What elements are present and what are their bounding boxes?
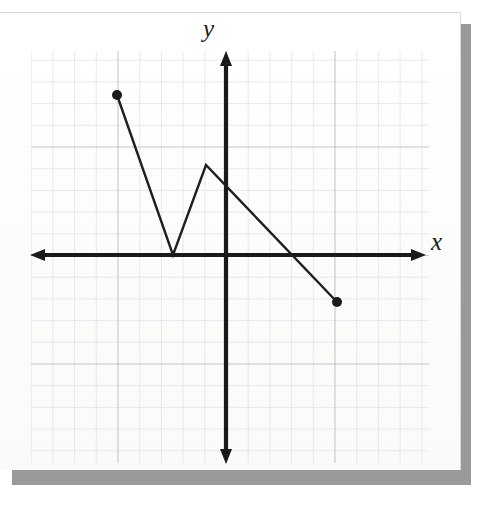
figure-scene: y x	[0, 0, 483, 515]
x-axis-label: x	[431, 229, 442, 254]
coordinate-plane	[0, 0, 483, 515]
right-endpoint-dot	[332, 297, 342, 307]
left-endpoint-dot	[112, 90, 122, 100]
y-axis-label: y	[203, 16, 214, 41]
